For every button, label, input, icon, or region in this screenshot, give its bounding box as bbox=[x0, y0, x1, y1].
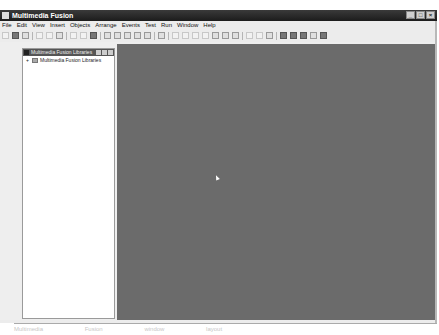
app-icon bbox=[2, 12, 9, 19]
redo-icon[interactable] bbox=[80, 32, 87, 39]
toolbar-separator bbox=[100, 32, 101, 40]
grid-icon[interactable] bbox=[202, 32, 209, 39]
minimize-button[interactable]: _ bbox=[406, 11, 415, 19]
toolbar-separator bbox=[242, 32, 243, 40]
menu-test[interactable]: Test bbox=[143, 21, 159, 30]
properties-icon[interactable] bbox=[232, 32, 239, 39]
toolbar-separator bbox=[168, 32, 169, 40]
menu-bar: File Edit View Insert Objects Arrange Ev… bbox=[0, 21, 437, 30]
client-area: Multimedia Fusion Libraries + Multimedia… bbox=[0, 42, 435, 320]
caption-part: window bbox=[144, 326, 164, 332]
lock-icon[interactable] bbox=[158, 32, 165, 39]
pause-icon[interactable] bbox=[300, 32, 307, 39]
menu-file[interactable]: File bbox=[0, 21, 15, 30]
layers-2-icon[interactable] bbox=[256, 32, 263, 39]
app-window: Multimedia Fusion _ □ × File Edit View I… bbox=[0, 10, 437, 323]
paste-icon[interactable] bbox=[56, 32, 63, 39]
play-icon[interactable] bbox=[320, 32, 327, 39]
layers-icon[interactable] bbox=[246, 32, 253, 39]
caption-part: Multimedia bbox=[14, 326, 43, 332]
toolbar-separator bbox=[32, 32, 33, 40]
stop-icon[interactable] bbox=[290, 32, 297, 39]
event-list-icon[interactable] bbox=[134, 32, 141, 39]
toolbar-separator bbox=[66, 32, 67, 40]
library-panel-title: Multimedia Fusion Libraries bbox=[31, 49, 92, 55]
copy-icon[interactable] bbox=[46, 32, 53, 39]
toolbar-separator bbox=[154, 32, 155, 40]
menu-events[interactable]: Events bbox=[120, 21, 143, 30]
help-icon[interactable] bbox=[90, 32, 97, 39]
step-through-icon[interactable] bbox=[144, 32, 151, 39]
step-icon[interactable] bbox=[310, 32, 317, 39]
zoom-icon[interactable] bbox=[212, 32, 219, 39]
rewind-icon[interactable] bbox=[280, 32, 287, 39]
panel-minimize-icon[interactable] bbox=[96, 50, 101, 55]
layers-3-icon[interactable] bbox=[266, 32, 273, 39]
undo-icon[interactable] bbox=[70, 32, 77, 39]
open-icon[interactable] bbox=[12, 32, 19, 39]
library-panel-title-bar[interactable]: Multimedia Fusion Libraries bbox=[23, 49, 114, 56]
menu-run[interactable]: Run bbox=[159, 21, 175, 30]
caption: Multimedia Fusion window layout bbox=[14, 326, 262, 332]
panel-close-icon[interactable] bbox=[108, 50, 113, 55]
menu-view[interactable]: View bbox=[30, 21, 48, 30]
expand-icon[interactable]: + bbox=[26, 56, 30, 64]
menu-window[interactable]: Window bbox=[175, 21, 201, 30]
library-icon[interactable] bbox=[222, 32, 229, 39]
cut-icon[interactable] bbox=[36, 32, 43, 39]
save-icon[interactable] bbox=[22, 32, 29, 39]
menu-arrange[interactable]: Arrange bbox=[93, 21, 119, 30]
align-icon[interactable] bbox=[172, 32, 179, 39]
maximize-button[interactable]: □ bbox=[416, 11, 425, 19]
divider bbox=[14, 323, 437, 324]
storyboard-icon[interactable] bbox=[114, 32, 121, 39]
mdi-workspace[interactable] bbox=[117, 44, 435, 320]
tree-item-label: Multimedia Fusion Libraries bbox=[40, 56, 101, 64]
menu-help[interactable]: Help bbox=[201, 21, 218, 30]
library-panel: Multimedia Fusion Libraries + Multimedia… bbox=[22, 48, 115, 319]
caption-part: layout bbox=[206, 326, 222, 332]
main-toolbar bbox=[0, 30, 437, 41]
frame-editor-icon[interactable] bbox=[104, 32, 111, 39]
menu-insert[interactable]: Insert bbox=[48, 21, 68, 30]
title-bar[interactable]: Multimedia Fusion _ □ × bbox=[0, 10, 437, 21]
toolbar-separator bbox=[276, 32, 277, 40]
library-panel-controls bbox=[96, 50, 113, 55]
library-icon bbox=[24, 50, 29, 55]
mouse-cursor-icon bbox=[214, 174, 220, 180]
event-editor-icon[interactable] bbox=[124, 32, 131, 39]
window-title: Multimedia Fusion bbox=[12, 12, 73, 19]
distribute-icon[interactable] bbox=[182, 32, 189, 39]
size-icon[interactable] bbox=[192, 32, 199, 39]
window-controls: _ □ × bbox=[406, 11, 435, 19]
close-button[interactable]: × bbox=[426, 11, 435, 19]
tree-item-libraries[interactable]: + Multimedia Fusion Libraries bbox=[23, 56, 114, 64]
menu-objects[interactable]: Objects bbox=[68, 21, 93, 30]
panel-restore-icon[interactable] bbox=[102, 50, 107, 55]
menu-edit[interactable]: Edit bbox=[15, 21, 30, 30]
caption-part: Fusion bbox=[85, 326, 103, 332]
folder-icon bbox=[32, 58, 38, 63]
new-icon[interactable] bbox=[2, 32, 9, 39]
